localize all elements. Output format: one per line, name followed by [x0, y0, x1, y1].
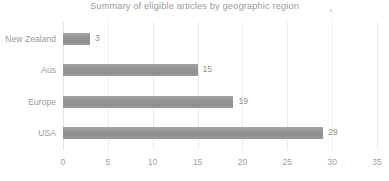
bar-new-zealand[interactable] — [63, 33, 90, 45]
bar-europe[interactable] — [63, 96, 233, 108]
x-tick-label-0: 0 — [48, 157, 78, 167]
gridline-35 — [377, 22, 378, 150]
x-tick-label-30: 30 — [317, 157, 347, 167]
gridline-artifact — [330, 9, 332, 12]
bar-row: 29 — [63, 127, 377, 139]
bar-aus[interactable] — [63, 64, 198, 76]
bar-row: 15 — [63, 64, 377, 76]
category-label-aus: Aus — [0, 64, 56, 76]
category-label-usa: USA — [0, 127, 56, 139]
category-label-new-zealand: New Zealand — [0, 33, 56, 45]
x-tick-label-15: 15 — [183, 157, 213, 167]
bar-value-label: 3 — [95, 32, 100, 44]
bar-row: 19 — [63, 96, 377, 108]
x-tick-label-5: 5 — [93, 157, 123, 167]
x-tick-label-10: 10 — [138, 157, 168, 167]
category-label-europe: Europe — [0, 96, 56, 108]
chart-container: Summary of eligible articles by geograph… — [0, 0, 389, 181]
x-tick-label-20: 20 — [227, 157, 257, 167]
x-tick-label-25: 25 — [272, 157, 302, 167]
bar-value-label: 19 — [238, 95, 248, 107]
bar-value-label: 15 — [203, 63, 213, 75]
bar-usa[interactable] — [63, 127, 323, 139]
bar-row: 3 — [63, 33, 377, 45]
x-tick-label-35: 35 — [362, 157, 389, 167]
bar-value-label: 29 — [328, 126, 338, 138]
